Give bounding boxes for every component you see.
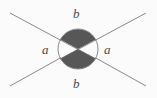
angle-label-left: a <box>42 43 49 56</box>
line-up-right-upper-arm <box>95 13 146 40</box>
geometry-figure: b b a a <box>0 0 157 98</box>
angle-label-right: a <box>104 43 111 56</box>
line-up-right-lower-arm <box>10 58 61 86</box>
angle-label-top: b <box>73 7 80 20</box>
angle-label-bottom: b <box>73 77 80 90</box>
line-down-right-lower-arm <box>95 58 146 86</box>
line-down-right-upper-arm <box>10 13 61 40</box>
